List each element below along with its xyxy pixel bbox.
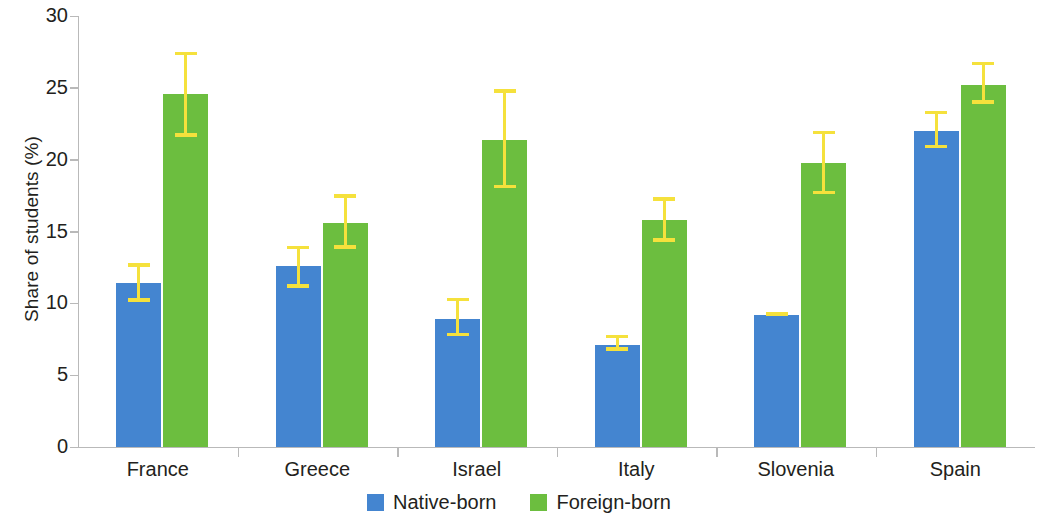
error-bar-israel-foreign-born: [482, 89, 527, 188]
error-bar-cap-lower: [653, 238, 675, 242]
legend-label: Native-born: [393, 491, 496, 514]
y-tick-mark: [70, 16, 78, 18]
error-bar-stem: [137, 263, 140, 302]
error-bar-stem: [982, 62, 985, 104]
error-bar-cap-lower: [766, 313, 788, 317]
bar-greece-foreign-born: [323, 223, 368, 447]
error-bar-stem: [297, 246, 300, 288]
x-tick-mark: [238, 447, 240, 457]
error-bar-cap-lower: [175, 133, 197, 137]
x-tick-mark: [716, 447, 718, 457]
x-tick-mark: [557, 447, 559, 457]
y-tick-mark: [70, 303, 78, 305]
plot-area: [78, 16, 1035, 447]
legend-item-foreign-born[interactable]: Foreign-born: [530, 491, 671, 514]
error-bar-stem: [456, 298, 459, 337]
x-axis-label-israel: Israel: [397, 458, 557, 481]
error-bar-cap-upper: [334, 194, 356, 198]
x-axis-label-slovenia: Slovenia: [716, 458, 876, 481]
legend-item-native-born[interactable]: Native-born: [367, 491, 496, 514]
legend-swatch-icon: [530, 494, 547, 511]
bar-france-native-born: [116, 283, 161, 447]
error-bar-france-foreign-born: [163, 52, 208, 137]
error-bar-cap-lower: [972, 100, 994, 104]
bar-slovenia-native-born: [754, 315, 799, 447]
x-axis-line: [70, 447, 1035, 449]
error-bar-cap-upper: [287, 246, 309, 250]
y-tick-label: 5: [28, 364, 68, 384]
error-bar-stem: [935, 111, 938, 148]
error-bar-spain-native-born: [914, 111, 959, 148]
y-tick-label: 30: [28, 5, 68, 25]
legend-label: Foreign-born: [556, 491, 671, 514]
error-bar-cap-lower: [128, 298, 150, 302]
error-bar-stem: [503, 89, 506, 188]
error-bar-slovenia-foreign-born: [801, 131, 846, 194]
x-tick-mark: [876, 447, 878, 457]
bar-spain-foreign-born: [961, 85, 1006, 447]
error-bar-spain-foreign-born: [961, 62, 1006, 104]
y-tick-mark: [70, 159, 78, 161]
error-bar-stem: [663, 197, 666, 242]
x-tick-mark: [397, 447, 399, 457]
y-tick-label: 25: [28, 77, 68, 97]
error-bar-cap-lower: [287, 284, 309, 288]
error-bar-cap-lower: [606, 347, 628, 351]
error-bar-israel-native-born: [435, 298, 480, 337]
error-bar-cap-upper: [128, 263, 150, 267]
bar-israel-native-born: [435, 319, 480, 447]
error-bar-france-native-born: [116, 263, 161, 302]
error-bar-cap-lower: [813, 191, 835, 195]
y-tick-label: 15: [28, 221, 68, 241]
legend-swatch-icon: [367, 494, 384, 511]
bar-slovenia-foreign-born: [801, 163, 846, 447]
error-bar-cap-upper: [494, 89, 516, 93]
error-bar-cap-lower: [925, 145, 947, 149]
error-bar-cap-upper: [925, 111, 947, 115]
error-bar-stem: [344, 194, 347, 249]
error-bar-cap-upper: [653, 197, 675, 201]
error-bar-stem: [184, 52, 187, 137]
y-tick-mark: [70, 87, 78, 89]
error-bar-stem: [822, 131, 825, 194]
bar-italy-native-born: [595, 345, 640, 447]
bar-spain-native-born: [914, 131, 959, 447]
error-bar-italy-foreign-born: [642, 197, 687, 242]
error-bar-italy-native-born: [595, 335, 640, 351]
error-bar-cap-lower: [494, 185, 516, 189]
bar-france-foreign-born: [163, 94, 208, 447]
x-axis-label-france: France: [78, 458, 238, 481]
y-tick-mark: [70, 375, 78, 377]
y-tick-mark: [70, 231, 78, 233]
error-bar-cap-upper: [972, 62, 994, 66]
error-bar-cap-upper: [175, 52, 197, 56]
error-bar-cap-lower: [447, 333, 469, 337]
x-axis-label-italy: Italy: [557, 458, 717, 481]
error-bar-greece-foreign-born: [323, 194, 368, 249]
chart-legend: Native-bornForeign-born: [0, 491, 1038, 514]
error-bar-slovenia-native-born: [754, 312, 799, 316]
bar-chart: Share of students (%) 051015202530 Nativ…: [0, 0, 1038, 520]
error-bar-cap-upper: [606, 335, 628, 339]
y-axis-line: [78, 16, 79, 447]
error-bar-cap-upper: [447, 298, 469, 302]
error-bar-cap-lower: [334, 245, 356, 249]
x-axis-label-spain: Spain: [876, 458, 1036, 481]
bar-greece-native-born: [276, 266, 321, 447]
y-tick-label: 20: [28, 149, 68, 169]
y-tick-label: 0: [28, 436, 68, 456]
y-tick-mark: [70, 447, 78, 449]
bar-italy-foreign-born: [642, 220, 687, 447]
y-axis-tick-labels: 051015202530: [28, 0, 68, 520]
error-bar-cap-upper: [813, 131, 835, 135]
y-tick-label: 10: [28, 292, 68, 312]
error-bar-greece-native-born: [276, 246, 321, 288]
x-axis-label-greece: Greece: [238, 458, 398, 481]
